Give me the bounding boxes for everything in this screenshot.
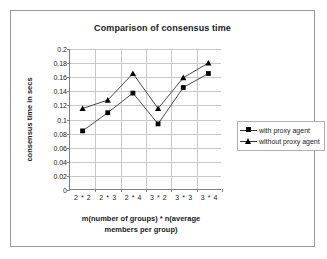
data-point-marker [156,122,161,127]
y-axis-tick-label: 0.1 [57,116,67,123]
x-axis-tick-mark [222,189,223,192]
x-axis-tick-mark [171,189,172,192]
legend-item-without-proxy-agent[interactable]: without proxy agent [240,136,320,147]
y-axis-tick-label: 0.08 [53,130,67,137]
legend-triangle-marker-icon [240,137,257,146]
x-axis-tick-label: 3 * 2 [150,194,167,201]
plot-wrapper: 00.020.040.060.080.10.120.140.160.180.2 … [59,49,221,193]
y-axis-tick-label: 0.12 [53,102,67,109]
data-point-marker [80,129,85,134]
legend-label-without-proxy-agent: without proxy agent [259,138,320,145]
series-line-without-proxy-agent [83,63,209,109]
y-axis-tick-label: 0.18 [53,60,67,67]
x-axis-title-line-2: members per group) [51,224,231,235]
data-point-marker [180,75,186,81]
x-axis-title-line-1: m(number of groups) * n(average [51,213,231,224]
x-axis-title: m(number of groups) * n(average members … [51,213,231,235]
x-axis-tick-mark [197,189,198,192]
legend-label-with-proxy-agent: with proxy agent [259,127,310,134]
y-axis-tick-label: 0.06 [53,144,67,151]
legend-square-marker-icon [240,126,257,135]
data-point-marker [130,70,136,76]
x-axis-tick-label: 2 * 4 [125,194,142,201]
y-axis-title: consensus time in secs [25,49,37,190]
y-axis-tick-label: 0.2 [57,46,67,53]
x-axis-tick-label: 3 * 4 [201,194,218,201]
plot-area: 00.020.040.060.080.10.120.140.160.180.2 … [69,49,221,190]
data-point-marker [206,71,211,76]
y-axis-tick-label: 0.16 [53,74,67,81]
y-axis-tick-label: 0.04 [53,158,67,165]
data-point-marker [80,105,86,111]
legend-item-with-proxy-agent[interactable]: with proxy agent [240,125,320,136]
chart-screenshot: Comparison of consensus time consensus t… [0,0,327,259]
y-axis-tick-label: 0.14 [53,88,67,95]
data-point-marker [131,91,136,96]
x-axis-tick-mark [121,189,122,192]
x-axis-tick-label: 2 * 2 [74,194,91,201]
data-point-marker [181,85,186,90]
y-axis-tick-label: 0.02 [53,172,67,179]
data-point-marker [105,110,110,115]
x-axis-tick-label: 2 * 3 [99,194,116,201]
data-series-layer [70,49,221,189]
data-point-marker [205,60,211,66]
x-axis-tick-label: 3 * 3 [175,194,192,201]
chart-frame: Comparison of consensus time consensus t… [10,10,315,247]
chart-title: Comparison of consensus time [11,23,314,33]
x-axis-tick-mark [146,189,147,192]
chart-legend: with proxy agent without proxy agent [237,121,325,151]
x-axis-tick-mark [95,189,96,192]
y-axis-tick-mark [67,190,70,191]
